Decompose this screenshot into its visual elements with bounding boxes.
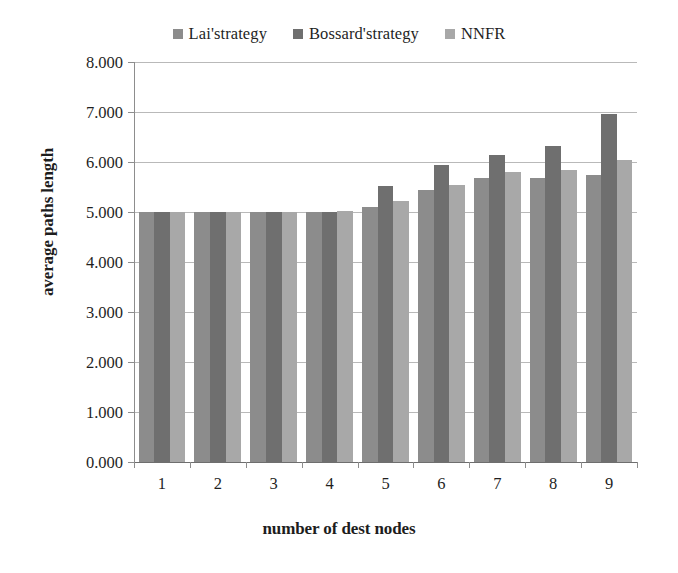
bar bbox=[530, 178, 546, 462]
bar-group bbox=[194, 62, 241, 462]
bar bbox=[449, 185, 465, 463]
x-tick-label: 5 bbox=[366, 474, 406, 494]
legend-entry-nnfr: NNFR bbox=[445, 24, 505, 44]
bar bbox=[378, 186, 394, 463]
bar bbox=[362, 207, 378, 462]
y-tick-label: 7.000 bbox=[53, 103, 123, 123]
y-tick-label: 2.000 bbox=[53, 353, 123, 373]
x-tick-label: 9 bbox=[589, 474, 629, 494]
y-tick-label: 1.000 bbox=[53, 403, 123, 423]
y-axis-tick-labels: 8.000 7.000 6.000 5.000 4.000 3.000 2.00… bbox=[45, 0, 123, 573]
bar bbox=[154, 212, 170, 462]
bar bbox=[474, 178, 490, 462]
y-tick-label: 8.000 bbox=[53, 53, 123, 73]
bar bbox=[139, 212, 155, 462]
bar bbox=[226, 212, 242, 462]
x-tick-label: 7 bbox=[477, 474, 517, 494]
bar-group bbox=[418, 62, 465, 462]
x-tick-mark bbox=[358, 462, 359, 468]
bar bbox=[561, 170, 577, 463]
x-tick-label: 3 bbox=[254, 474, 294, 494]
x-tick-mark bbox=[637, 462, 638, 468]
x-tick-label: 4 bbox=[310, 474, 350, 494]
bar bbox=[545, 146, 561, 463]
legend-label: Lai'strategy bbox=[189, 24, 267, 44]
x-tick-mark bbox=[525, 462, 526, 468]
bar-group bbox=[530, 62, 577, 462]
x-axis-title: number of dest nodes bbox=[0, 519, 678, 539]
bar-group bbox=[474, 62, 521, 462]
x-tick-mark bbox=[190, 462, 191, 468]
y-tick-label: 4.000 bbox=[53, 253, 123, 273]
x-tick-mark bbox=[581, 462, 582, 468]
bar bbox=[489, 155, 505, 463]
x-tick-mark bbox=[302, 462, 303, 468]
x-tick-mark bbox=[134, 462, 135, 468]
bar bbox=[170, 212, 186, 462]
plot-area bbox=[134, 62, 637, 462]
bar bbox=[282, 212, 298, 462]
bar bbox=[505, 172, 521, 462]
legend-swatch-icon bbox=[445, 29, 455, 39]
x-axis-line bbox=[134, 462, 637, 463]
y-tick-label: 6.000 bbox=[53, 153, 123, 173]
bar-group bbox=[362, 62, 409, 462]
legend-label: NNFR bbox=[461, 24, 505, 44]
x-tick-mark bbox=[246, 462, 247, 468]
y-tick-label: 5.000 bbox=[53, 203, 123, 223]
legend-entry-bossard-strategy: Bossard'strategy bbox=[293, 24, 419, 44]
bar bbox=[194, 212, 210, 462]
x-tick-label: 1 bbox=[142, 474, 182, 494]
x-tick-label: 6 bbox=[421, 474, 461, 494]
bar-group bbox=[139, 62, 186, 462]
bar bbox=[586, 175, 602, 463]
bar-group bbox=[306, 62, 353, 462]
x-tick-mark bbox=[413, 462, 414, 468]
x-tick-label: 8 bbox=[533, 474, 573, 494]
bar bbox=[250, 212, 266, 462]
y-tick-label: 3.000 bbox=[53, 303, 123, 323]
legend-label: Bossard'strategy bbox=[309, 24, 419, 44]
bar bbox=[418, 190, 434, 463]
bar bbox=[306, 212, 322, 462]
bar-chart: Lai'strategy Bossard'strategy NNFR avera… bbox=[0, 0, 678, 573]
bar bbox=[393, 201, 409, 462]
bar bbox=[266, 212, 282, 462]
x-tick-mark bbox=[469, 462, 470, 468]
bar bbox=[617, 160, 633, 463]
legend-entry-lai-strategy: Lai'strategy bbox=[173, 24, 267, 44]
legend-swatch-icon bbox=[173, 29, 183, 39]
x-tick-label: 2 bbox=[198, 474, 238, 494]
y-tick-label: 0.000 bbox=[53, 453, 123, 473]
bar-group bbox=[586, 62, 633, 462]
bar bbox=[210, 212, 226, 462]
bar bbox=[322, 212, 338, 462]
bar bbox=[434, 165, 450, 463]
bar bbox=[337, 211, 353, 462]
bar bbox=[601, 114, 617, 463]
y-axis-line bbox=[134, 62, 135, 463]
bar-group bbox=[250, 62, 297, 462]
legend-swatch-icon bbox=[293, 29, 303, 39]
